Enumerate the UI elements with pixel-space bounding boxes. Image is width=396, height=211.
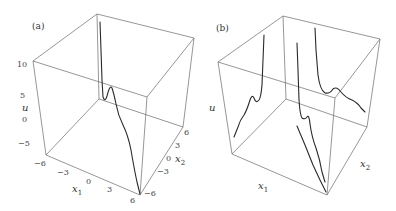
panel-b-curve-middle-lower bbox=[297, 126, 326, 192]
svg-text:6: 6 bbox=[184, 128, 189, 137]
svg-text:3: 3 bbox=[175, 141, 180, 150]
panel-b-x1-label: x1 bbox=[258, 180, 268, 194]
panel-a-x2-label: x2 bbox=[175, 153, 185, 167]
panel-b-curve-right bbox=[315, 28, 365, 112]
figure: (a) u 10 5 0 −5 −6 −3 0 3 6 x1 6 3 0 −3 … bbox=[0, 0, 396, 211]
svg-text:0: 0 bbox=[22, 115, 27, 124]
svg-text:10: 10 bbox=[17, 60, 27, 69]
svg-text:−6: −6 bbox=[144, 189, 156, 198]
panel-a: (a) u 10 5 0 −5 −6 −3 0 3 6 x1 6 3 0 −3 … bbox=[17, 14, 194, 205]
panel-b-label: (b) bbox=[216, 23, 229, 33]
svg-text:−5: −5 bbox=[18, 139, 30, 148]
svg-text:0: 0 bbox=[166, 154, 171, 163]
panel-b-curve-left bbox=[234, 35, 264, 137]
panel-a-x1-ticks: −6 −3 0 3 6 bbox=[34, 159, 135, 205]
svg-text:−3: −3 bbox=[157, 167, 169, 176]
svg-text:3: 3 bbox=[107, 185, 112, 194]
svg-text:5: 5 bbox=[20, 91, 25, 100]
panel-a-x1-label: x1 bbox=[72, 183, 82, 197]
panel-a-u-label: u bbox=[22, 102, 28, 113]
svg-text:0: 0 bbox=[86, 177, 91, 186]
panel-b: (b) u x1 x2 bbox=[209, 16, 380, 195]
panel-b-x2-label: x2 bbox=[360, 158, 370, 172]
panel-b-u-label: u bbox=[209, 102, 215, 113]
svg-text:−6: −6 bbox=[34, 159, 46, 168]
panel-a-curve bbox=[100, 22, 140, 194]
svg-text:−3: −3 bbox=[57, 168, 69, 177]
svg-text:6: 6 bbox=[130, 196, 135, 205]
panel-a-label: (a) bbox=[32, 21, 44, 31]
